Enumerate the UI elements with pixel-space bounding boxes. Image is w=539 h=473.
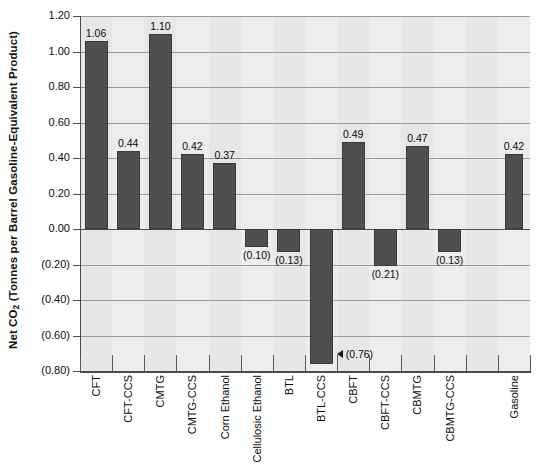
y-axis-tick: [73, 336, 80, 337]
bar: [374, 229, 397, 266]
x-axis-label: CBMTG: [411, 375, 423, 415]
y-axis-tick: [73, 194, 80, 195]
bar-series: 1.060.441.100.420.37(0.10)(0.13)(0.76)0.…: [80, 16, 530, 371]
x-axis-label-slot: BTL-CCS: [305, 373, 337, 473]
bar: [505, 154, 523, 229]
x-axis-label: Cellulosic Ethanol: [251, 375, 263, 462]
bar-value-label: 1.10: [143, 20, 178, 32]
bar-value-label: (0.13): [271, 254, 306, 266]
y-axis-tick: [73, 87, 80, 88]
x-axis-label: CBMTG-CCS: [444, 375, 456, 442]
y-axis-tick-label: (0.20): [0, 258, 70, 270]
y-axis-tick-label: 0.80: [0, 80, 70, 92]
bar-value-label: (0.13): [432, 254, 467, 266]
x-axis-tick: [337, 355, 338, 371]
plot-area: 1.060.441.100.420.37(0.10)(0.13)(0.76)0.…: [80, 16, 530, 371]
y-axis-tick: [73, 52, 80, 53]
y-axis-tick-label: (0.80): [0, 364, 70, 376]
x-axis-label-slot: CBMTG: [401, 373, 433, 473]
x-axis-tick: [498, 355, 499, 371]
x-axis-label-slot: CBMTG-CCS: [434, 373, 466, 473]
x-axis-labels: CFTCFT-CCSCMTGCMTG-CCSCorn EthanolCellul…: [80, 373, 531, 473]
x-axis-tick: [209, 355, 210, 371]
x-axis-tick: [112, 355, 113, 371]
y-axis-tick: [73, 300, 80, 301]
x-axis-label: CBFT: [347, 375, 359, 404]
x-axis-tick: [530, 355, 531, 371]
y-axis-tick-label: 0.60: [0, 116, 70, 128]
x-axis-label-slot: Gasoline: [498, 373, 530, 473]
x-axis-label-slot: Cellulosic Ethanol: [241, 373, 273, 473]
bar: [245, 229, 268, 247]
x-axis-tick: [241, 355, 242, 371]
x-axis-tick: [305, 355, 306, 371]
bar-value-label: (0.76): [337, 348, 373, 360]
bar-value-label: (0.21): [368, 268, 403, 280]
y-axis-tick-label: 1.20: [0, 9, 70, 21]
bar-value-label: 0.42: [175, 140, 210, 152]
y-axis-tick: [73, 229, 80, 230]
y-axis-tick-label: 0.20: [0, 187, 70, 199]
bar-value-label: 0.37: [207, 149, 242, 161]
bar-value-label: 0.42: [496, 140, 531, 152]
x-axis-label-slot: CBFT-CCS: [369, 373, 401, 473]
bar: [438, 229, 461, 252]
bar: [149, 34, 172, 229]
x-axis-tick: [401, 355, 402, 371]
bar-value-label: 0.44: [111, 137, 146, 149]
y-axis-tick: [73, 158, 80, 159]
bar-value-label: 0.47: [400, 132, 435, 144]
x-axis-label-slot: BTL: [273, 373, 305, 473]
x-axis-tick: [369, 355, 370, 371]
x-axis-label: CMTG-CCS: [186, 375, 198, 434]
bar: [342, 142, 365, 229]
x-axis-label-slot: CMTG-CCS: [176, 373, 208, 473]
x-axis-tick: [273, 355, 274, 371]
x-axis-label: Gasoline: [508, 375, 520, 418]
bar: [117, 151, 140, 229]
bar-value-label: 1.06: [78, 27, 113, 39]
x-axis-label-slot: CMTG: [144, 373, 176, 473]
x-axis-tick: [434, 355, 435, 371]
bar: [85, 41, 108, 229]
y-axis-tick: [73, 16, 80, 17]
y-axis-tick: [73, 123, 80, 124]
bar: [277, 229, 300, 252]
x-axis-label: BTL: [283, 375, 295, 395]
x-axis-label-slot: CFT-CCS: [112, 373, 144, 473]
x-axis-tick: [144, 355, 145, 371]
bar: [310, 229, 333, 364]
y-axis-tick-label: (0.60): [0, 329, 70, 341]
y-axis-line: [80, 16, 81, 371]
bar-value-label: 0.49: [336, 128, 371, 140]
y-axis-title-subscript: 2: [11, 305, 21, 310]
x-axis-tick: [466, 355, 467, 371]
bar: [406, 146, 429, 229]
y-axis-tick-label: 1.00: [0, 45, 70, 57]
y-axis-tick-label: 0.40: [0, 151, 70, 163]
x-axis-label-slot: CFT: [80, 373, 112, 473]
bar-value-label: (0.10): [239, 249, 274, 261]
x-axis-tick: [176, 355, 177, 371]
x-axis-label-slot: CBFT: [337, 373, 369, 473]
y-axis-tick: [73, 265, 80, 266]
y-axis-tick-label: (0.40): [0, 293, 70, 305]
x-axis-label: BTL-CCS: [315, 375, 327, 422]
x-axis-label: CBFT-CCS: [379, 375, 391, 430]
chart-figure: Net CO2 (Tonnes per Barrel Gasoline-Equi…: [0, 0, 539, 473]
x-axis-label-slot: Corn Ethanol: [209, 373, 241, 473]
x-axis-label: CFT: [90, 375, 102, 396]
x-axis-label: CFT-CCS: [122, 375, 134, 423]
bar: [213, 163, 236, 229]
x-axis-tick: [80, 355, 81, 371]
y-axis-tick-label: 0.00: [0, 222, 70, 234]
x-axis-label: Corn Ethanol: [219, 375, 231, 439]
y-axis-tick: [73, 371, 80, 372]
x-axis-label: CMTG: [154, 375, 166, 407]
bar: [181, 154, 204, 229]
